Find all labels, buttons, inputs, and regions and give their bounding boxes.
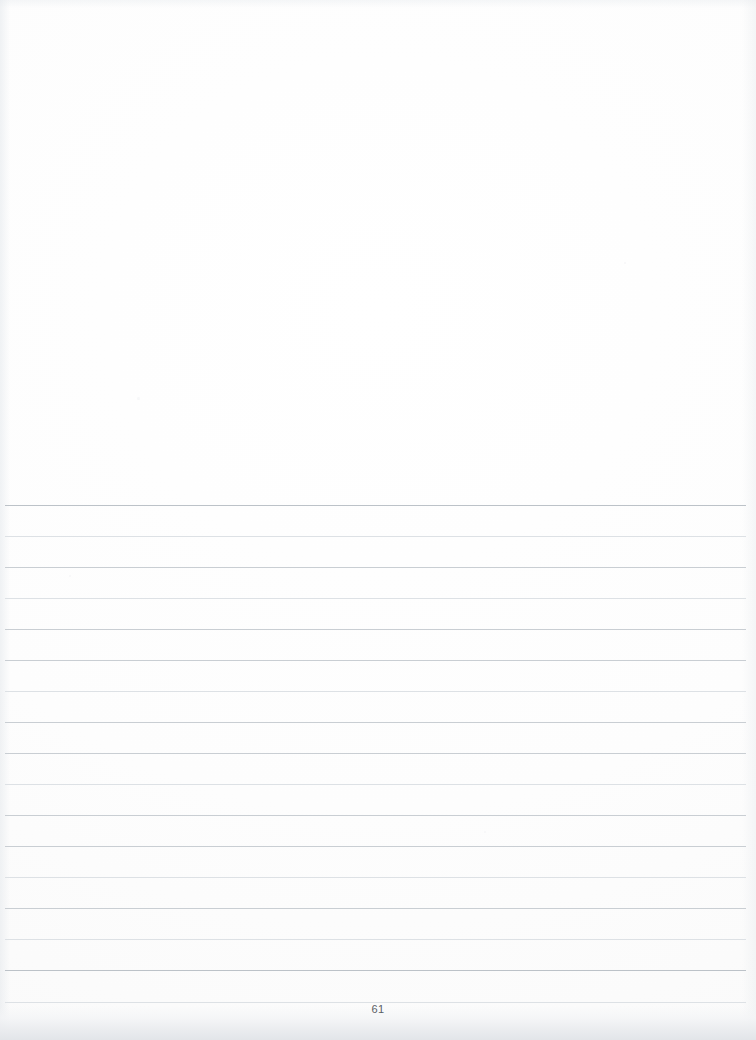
scanned-page: 61 xyxy=(0,0,756,1040)
page-number: 61 xyxy=(0,1003,756,1015)
blank-top-region xyxy=(0,0,756,505)
